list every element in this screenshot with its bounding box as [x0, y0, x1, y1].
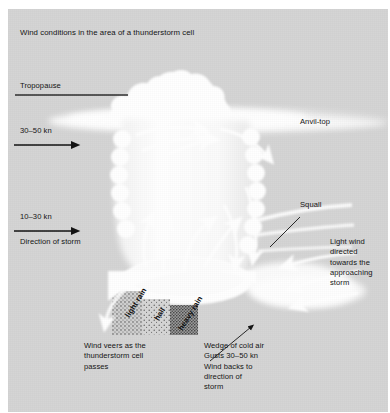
diagram-panel: Wind conditions in the area of a thunder…: [8, 9, 388, 412]
storm-cell-illustration: [8, 9, 388, 412]
label-wind-veers: Wind veers as the thunderstorm cell pass…: [84, 341, 146, 372]
label-direction-of-storm: Direction of storm: [20, 237, 81, 247]
label-tropopause: Tropopause: [20, 81, 61, 91]
label-lower-wind-speed: 10–30 kn: [20, 212, 52, 222]
label-anvil-top: Anvil-top: [300, 117, 330, 127]
diagram-page: Wind conditions in the area of a thunder…: [0, 0, 390, 413]
label-squall: Squall: [300, 200, 321, 210]
label-upper-wind-speed: 30–50 kn: [20, 126, 52, 136]
page-title: Wind conditions in the area of a thunder…: [20, 28, 194, 38]
label-light-wind: Light wind directed towards the approach…: [330, 237, 372, 288]
label-cold-wedge: Wedge of cold air Gusts 30–50 kn Wind ba…: [204, 341, 264, 392]
